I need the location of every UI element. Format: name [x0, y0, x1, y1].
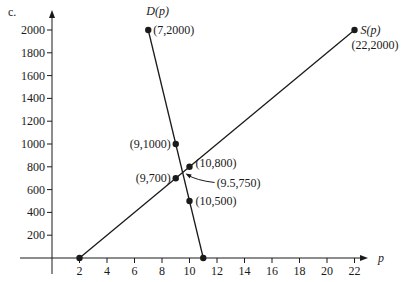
y-tick-label: 1200 [21, 114, 45, 128]
x-tick-label: 18 [294, 264, 306, 278]
annotation-label: (7,2000) [153, 23, 194, 37]
annotation-label: (9.5,750) [217, 176, 261, 190]
data-point-dot [351, 27, 357, 33]
data-point-dot [186, 164, 192, 170]
data-point-dot [186, 198, 192, 204]
y-tick-label: 1600 [21, 69, 45, 83]
data-point-dot [76, 255, 82, 261]
x-tick-label: 2 [77, 264, 83, 278]
y-tick-label: 600 [27, 183, 45, 197]
y-tick-label: 1400 [21, 91, 45, 105]
supply-demand-chart: p 24681012141618202220040060080010001200… [0, 0, 404, 282]
annotation-label: (9,700) [136, 171, 171, 185]
x-tick-label: 14 [239, 264, 251, 278]
x-tick-label: 8 [159, 264, 165, 278]
x-tick-label: 20 [321, 264, 333, 278]
axes: p [20, 10, 384, 274]
x-axis-arrow-icon [360, 255, 368, 261]
y-tick-label: 1800 [21, 46, 45, 60]
annotation-label: (9,1000) [130, 137, 171, 151]
y-tick-label: 200 [27, 228, 45, 242]
annotation-label: (10,800) [196, 156, 237, 170]
x-axis-label: p [377, 251, 384, 265]
x-tick-label: 22 [349, 264, 361, 278]
y-tick-label: 800 [27, 160, 45, 174]
y-tick-label: 2000 [21, 23, 45, 37]
y-tick-label: 1000 [21, 137, 45, 151]
data-point-dot [200, 255, 206, 261]
ticks: 2468101214161820222004006008001000120014… [21, 23, 361, 278]
y-tick-label: 400 [27, 205, 45, 219]
annotation-label: (10,500) [196, 194, 237, 208]
x-tick-label: 6 [132, 264, 138, 278]
arrowhead-icon [186, 174, 192, 179]
x-tick-label: 4 [104, 264, 110, 278]
data-point-dot [173, 141, 179, 147]
x-tick-label: 10 [184, 264, 196, 278]
annotation-label: (22,2000) [352, 38, 399, 52]
data-point-dot [145, 27, 151, 33]
annotation-label: D(p) [145, 4, 169, 18]
supply-line [80, 30, 355, 258]
data-point-dot [173, 175, 179, 181]
y-axis-arrow-icon [49, 10, 55, 18]
x-tick-label: 12 [211, 264, 223, 278]
annotation-label: S(p) [361, 23, 381, 37]
point-labels: D(p)(7,2000)S(p)(22,2000)(9,1000)(10,800… [130, 4, 399, 208]
series-lines [80, 30, 355, 258]
x-tick-label: 16 [266, 264, 278, 278]
part-label: c. [8, 5, 16, 19]
